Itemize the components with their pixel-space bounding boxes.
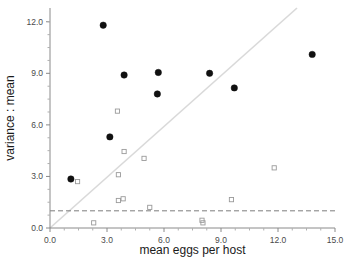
data-point-filled [155, 69, 161, 75]
x-tick-label: 15.0 [327, 235, 344, 245]
scatter-plot-figure: 0.03.06.09.012.015.0 0.03.06.09.012.0 me… [0, 0, 352, 260]
data-point-open [116, 198, 120, 202]
y-axis-title: variance : mean [3, 75, 17, 160]
x-tick-label: 3.0 [101, 235, 113, 245]
y-tick-label: 0.0 [31, 223, 43, 233]
data-point-filled [121, 72, 127, 78]
data-point-open [116, 173, 120, 177]
data-point-filled [231, 85, 237, 91]
data-point-open [92, 221, 96, 225]
data-point-open [121, 197, 125, 201]
data-point-open [142, 156, 146, 160]
data-point-filled [68, 176, 74, 182]
reference-lines [50, 8, 335, 228]
data-point-open [115, 109, 119, 113]
plot-canvas: 0.03.06.09.012.015.0 0.03.06.09.012.0 me… [0, 0, 352, 260]
x-axis-ticks [50, 228, 335, 232]
x-tick-label: 12.0 [270, 235, 287, 245]
data-point-open [229, 198, 233, 202]
data-point-open [75, 179, 79, 183]
data-point-filled [206, 70, 212, 76]
data-point-filled [309, 51, 315, 57]
y-tick-label: 12.0 [26, 17, 43, 27]
y-tick-label: 9.0 [31, 68, 43, 78]
data-point-filled [154, 91, 160, 97]
data-point-open [272, 166, 276, 170]
data-point-open [122, 149, 126, 153]
data-point-filled [107, 134, 113, 140]
y-axis-ticks [46, 22, 50, 228]
data-point-filled [100, 22, 106, 28]
y-axis: 0.03.06.09.012.0 [26, 8, 50, 233]
y-tick-label: 6.0 [31, 120, 43, 130]
y-axis-tick-labels: 0.03.06.09.012.0 [26, 17, 43, 233]
open-square-series [75, 109, 276, 225]
x-tick-label: 0.0 [44, 235, 56, 245]
y-tick-label: 3.0 [31, 171, 43, 181]
data-point-open [148, 205, 152, 209]
x-axis-title: mean eggs per host [139, 243, 246, 257]
identity-diagonal-line [50, 8, 297, 228]
